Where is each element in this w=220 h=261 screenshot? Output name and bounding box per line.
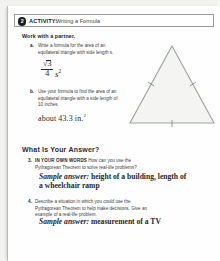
question-item: 4. Describe a situation in which you cou… xyxy=(35,199,155,219)
fraction-numerator: √3 xyxy=(41,60,53,69)
item-text: Write a formula for the area of an equil… xyxy=(38,43,113,55)
activity-label: ACTIVITY: xyxy=(29,18,57,24)
question-text: Describe a situation in which you could … xyxy=(35,199,147,217)
page-content-area: 2 ACTIVITY: Writing a Formula Work with … xyxy=(8,6,219,261)
item-marker: a. xyxy=(30,43,34,50)
lead-instruction: Work with a partner. xyxy=(22,33,75,39)
list-item: b. Use your formula to find the area of … xyxy=(38,89,120,109)
formula-exponent: 2 xyxy=(58,68,61,74)
sample-answer: Sample answer: measurement of a TV xyxy=(39,217,189,226)
textbook-page: 2 ACTIVITY: Writing a Formula Work with … xyxy=(7,6,219,261)
answer-exponent: 2 xyxy=(83,113,86,118)
area-formula: √3 4 s2 xyxy=(41,58,61,80)
sample-answer-text: measurement of a TV xyxy=(91,217,161,226)
sample-answer-label: Sample answer: xyxy=(39,172,89,181)
section-heading: What Is Your Answer? xyxy=(22,146,99,153)
activity-number-badge: 2 xyxy=(18,17,26,25)
question-marker: 4. xyxy=(28,199,32,206)
answer-text: about 43.3 in. xyxy=(38,114,83,123)
list-item: a. Write a formula for the area of an eq… xyxy=(38,43,124,56)
fraction: √3 4 xyxy=(41,60,53,78)
formula-variable: s2 xyxy=(53,68,61,80)
question-marker: 3. xyxy=(28,158,32,165)
activity-title: Writing a Formula xyxy=(56,18,100,24)
item-text: Use your formula to find the area of an … xyxy=(38,89,117,107)
triangle-shape xyxy=(130,46,214,123)
sample-answer-label: Sample answer: xyxy=(39,217,89,226)
equilateral-triangle-figure xyxy=(126,41,218,129)
question-item: 3. IN YOUR OWN WORDS How can you use the… xyxy=(35,158,143,171)
sample-answer: Sample answer: height of a building, len… xyxy=(39,172,189,191)
question-emphasis: IN YOUR OWN WORDS xyxy=(35,158,87,163)
scanned-page-background: 2 ACTIVITY: Writing a Formula Work with … xyxy=(0,0,219,261)
radical: √3 xyxy=(43,60,51,68)
answer-item-b: about 43.3 in.2 xyxy=(38,113,86,123)
activity-header-bar: 2 ACTIVITY: Writing a Formula xyxy=(14,14,214,27)
fraction-denominator: 4 xyxy=(45,69,49,78)
vinculum-icon xyxy=(46,60,51,61)
item-marker: b. xyxy=(30,89,34,96)
